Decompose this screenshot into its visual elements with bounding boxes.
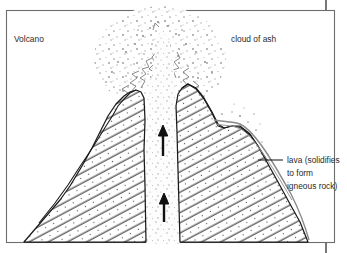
volcano-label: Volcano [14,34,44,44]
diagram-page: Volcano cloud of ash lava (solidifies to… [0,0,347,253]
lava-label-line-3: igneous rock) [287,181,337,191]
volcano-diagram: Volcano cloud of ash lava (solidifies to… [0,0,347,253]
lava-label-line-2: to form [287,168,313,178]
lava-label-line-1: lava (solidifies [287,155,340,165]
ash-cloud-label: cloud of ash [231,34,277,44]
